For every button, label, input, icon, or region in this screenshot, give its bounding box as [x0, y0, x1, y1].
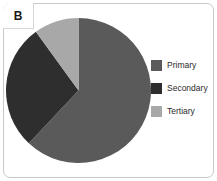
pie-chart-svg — [6, 17, 151, 164]
subfigure-label-box: B — [3, 3, 34, 29]
pie-slice-group — [6, 18, 151, 163]
legend-label-secondary: Secondary — [167, 84, 208, 93]
figure-panel: B PrimarySecondaryTertiary — [0, 0, 217, 181]
subfigure-label: B — [14, 10, 23, 22]
legend-item-secondary: Secondary — [151, 77, 215, 99]
pie-chart — [6, 17, 151, 164]
legend-label-tertiary: Tertiary — [167, 107, 195, 116]
legend-swatch-secondary — [151, 83, 162, 94]
legend-item-tertiary: Tertiary — [151, 100, 215, 122]
chart-legend: PrimarySecondaryTertiary — [151, 54, 215, 123]
legend-swatch-primary — [151, 60, 162, 71]
legend-item-primary: Primary — [151, 54, 215, 76]
legend-label-primary: Primary — [167, 61, 196, 70]
legend-swatch-tertiary — [151, 106, 162, 117]
